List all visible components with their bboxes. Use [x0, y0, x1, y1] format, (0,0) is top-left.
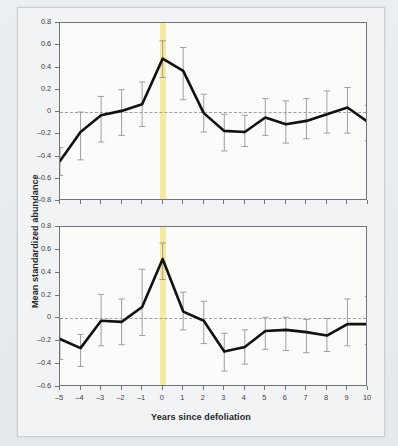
x-axis-tick-label: 8: [318, 393, 334, 402]
x-axis-tick: [244, 386, 245, 390]
x-axis-tick-label: –5: [51, 393, 67, 402]
x-axis-tick-label: –1: [133, 393, 149, 402]
x-axis-tick: [80, 386, 81, 390]
figure-container: Mean standardized abundance BLACK-BILLED…: [0, 0, 398, 446]
y-axis-tick-label: 0.2: [25, 290, 51, 299]
x-axis-tick: [264, 386, 265, 390]
plot-area: [59, 226, 367, 386]
y-axis-tick: [55, 249, 59, 250]
y-axis-tick-label: –0.2: [25, 335, 51, 344]
y-axis-tick: [55, 340, 59, 341]
y-axis-tick-label: 0.8: [25, 221, 51, 230]
x-axis-tick: [59, 386, 60, 390]
x-axis-tick-label: 0: [154, 393, 170, 402]
x-axis-tick-label: 6: [277, 393, 293, 402]
x-axis-tick-label: –3: [92, 393, 108, 402]
x-axis-tick: [367, 386, 368, 390]
y-axis-tick-label: 0: [25, 312, 51, 321]
x-axis-title: Years since defoliation: [18, 412, 384, 422]
x-axis-tick-label: 5: [256, 393, 272, 402]
x-axis-tick-label: 4: [236, 393, 252, 402]
error-bar: [344, 299, 350, 346]
x-axis-tick: [141, 386, 142, 390]
error-bar: [365, 297, 367, 345]
y-axis-tick-label: –0.4: [25, 358, 51, 367]
data-line: [60, 259, 367, 352]
x-axis-tick: [100, 386, 101, 390]
error-bar: [77, 334, 83, 366]
x-axis-tick: [182, 386, 183, 390]
x-axis-tick: [285, 386, 286, 390]
x-axis-tick-label: 10: [359, 393, 375, 402]
x-axis-tick-label: –2: [113, 393, 129, 402]
x-axis-tick-label: –4: [72, 393, 88, 402]
x-axis-tick: [223, 386, 224, 390]
y-axis-tick: [55, 272, 59, 273]
x-axis-tick: [121, 386, 122, 390]
x-axis-tick-label: 9: [338, 393, 354, 402]
figure-paper: Mean standardized abundance BLACK-BILLED…: [17, 7, 385, 437]
series-yellow-billed-cuckoo: [60, 227, 367, 386]
x-axis-tick: [162, 386, 163, 390]
x-axis-tick-label: 2: [195, 393, 211, 402]
y-axis-tick-label: 0.4: [25, 267, 51, 276]
error-bar: [283, 317, 289, 350]
y-axis-tick-label: 0.6: [25, 244, 51, 253]
x-axis-tick: [203, 386, 204, 390]
y-axis-tick: [55, 226, 59, 227]
x-axis-tick-label: 3: [215, 393, 231, 402]
y-axis-tick-label: –0.6: [25, 381, 51, 390]
x-axis-tick: [346, 386, 347, 390]
y-axis-tick: [55, 295, 59, 296]
x-axis-tick: [305, 386, 306, 390]
x-axis-tick-label: 7: [297, 393, 313, 402]
x-axis-tick-label: 1: [174, 393, 190, 402]
x-axis-tick: [326, 386, 327, 390]
y-axis-tick: [55, 363, 59, 364]
error-bar: [303, 320, 309, 353]
y-axis-tick: [55, 317, 59, 318]
panel-yellow-billed-cuckoo: YELLOW-BILLED CUCKOO 0.80.60.40.20–0.2–0…: [18, 8, 384, 436]
